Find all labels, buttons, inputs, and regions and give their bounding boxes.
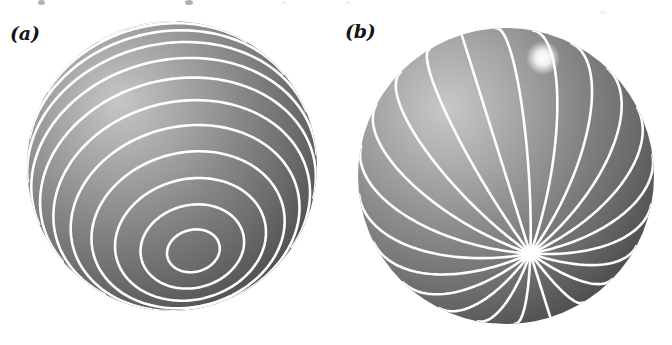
panel-a-sphere bbox=[27, 21, 317, 311]
sphere-b-pole-glow bbox=[526, 41, 560, 75]
figure-root: (a) (b) bbox=[0, 0, 672, 345]
sphere-figure-canvas bbox=[0, 0, 672, 345]
panel-label-a: (a) bbox=[10, 24, 40, 43]
panel-b-sphere bbox=[358, 28, 654, 324]
scan-artifact-mark bbox=[38, 0, 45, 5]
scan-artifact-mark bbox=[281, 1, 286, 4]
scan-artifact-mark bbox=[345, 1, 350, 4]
scan-artifact-mark bbox=[185, 0, 193, 5]
scan-artifact-mark bbox=[600, 11, 605, 14]
panel-label-b: (b) bbox=[345, 22, 376, 41]
